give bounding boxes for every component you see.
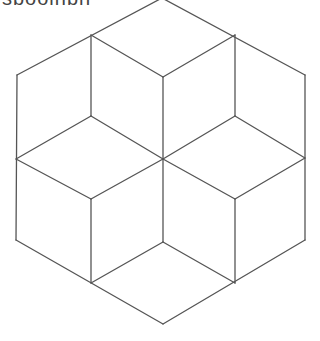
bottom-rhombus xyxy=(91,159,235,283)
outer-hexagon xyxy=(16,0,305,324)
hexagon-cube-diagram xyxy=(0,0,320,341)
middle-rhombi xyxy=(16,116,305,199)
top-rhombus xyxy=(91,35,235,159)
